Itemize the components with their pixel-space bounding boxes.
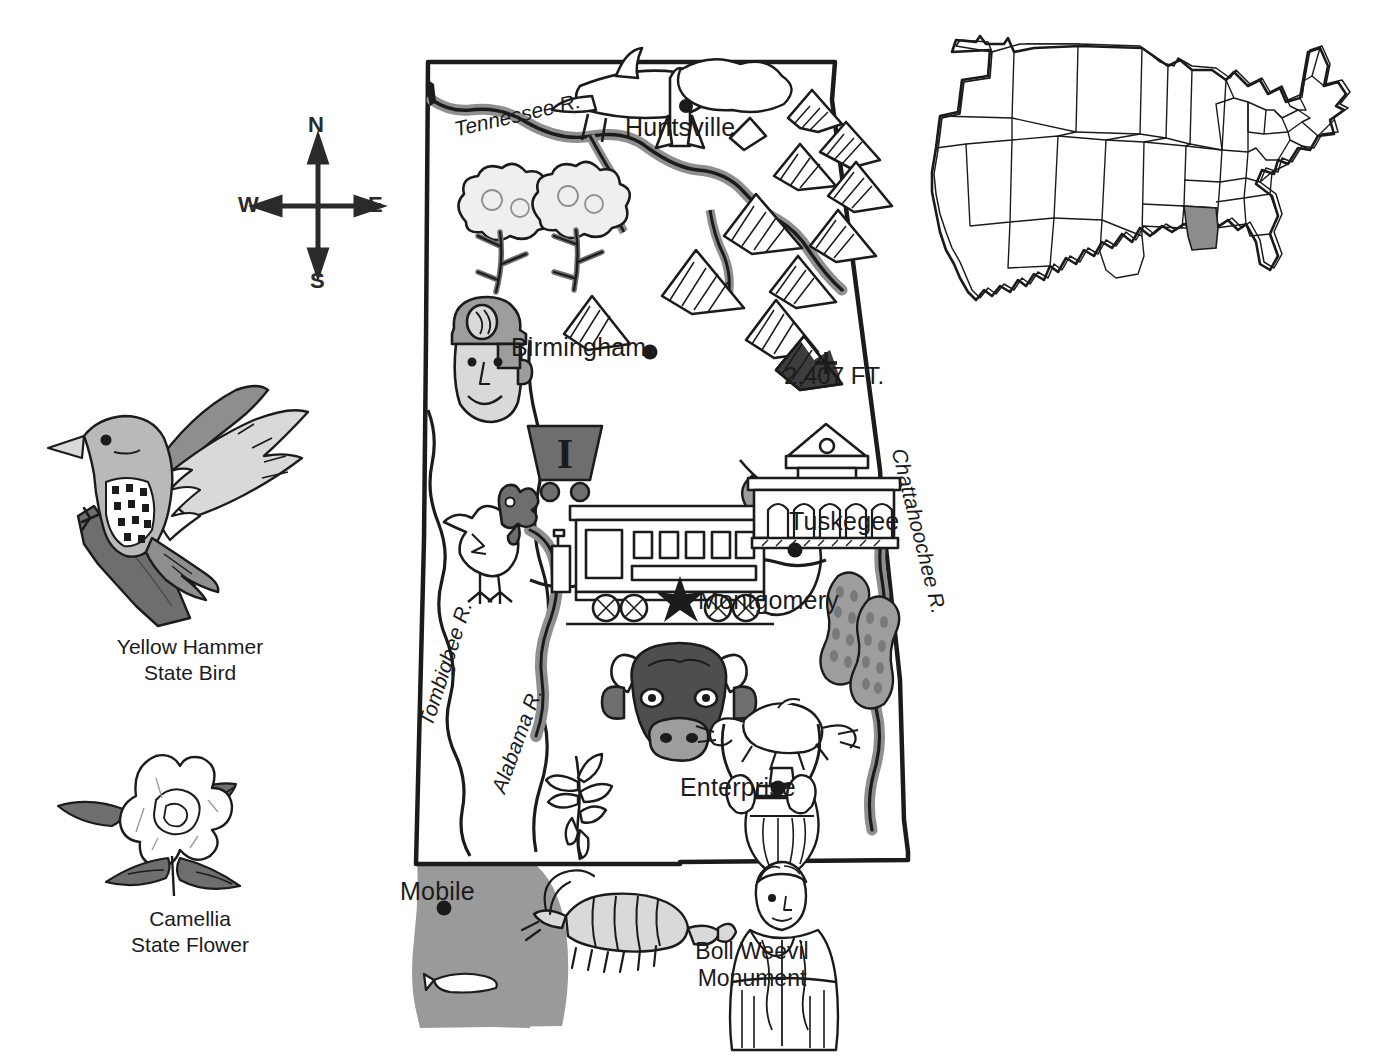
boll-weevil-monument-label: Boll Weevil Monument <box>672 938 832 992</box>
camellia-flower-icon <box>40 740 340 900</box>
united-states-inset-map <box>930 22 1360 322</box>
svg-text:I: I <box>557 431 573 477</box>
state-bird-panel: Yellow Hammer State Bird <box>40 378 340 685</box>
state-flower-subtitle: State Flower <box>40 932 340 958</box>
city-label-huntsville: Huntsville <box>625 113 735 142</box>
city-label-mobile: Mobile <box>400 877 475 906</box>
state-flower-panel: Camellia State Flower <box>40 740 340 957</box>
inset-highlight-alabama <box>1184 206 1218 250</box>
yellowhammer-bird-icon <box>40 378 340 628</box>
state-bird-subtitle: State Bird <box>40 660 340 686</box>
compass-rose: N S E W <box>252 118 384 294</box>
tuskegee-marker <box>788 543 803 558</box>
state-bird-name: Yellow Hammer <box>40 634 340 660</box>
state-flower-name: Camellia <box>40 906 340 932</box>
compass-north-label: N <box>308 112 324 138</box>
city-label-montgomery: Montgomery <box>698 586 839 615</box>
elevation-label: 2,407 FT. <box>784 362 884 390</box>
monument-label-line2: Monument <box>672 965 832 992</box>
state-flower-caption: Camellia State Flower <box>40 906 340 957</box>
state-bird-caption: Yellow Hammer State Bird <box>40 634 340 685</box>
city-label-birmingham: Birmingham <box>511 333 646 362</box>
cloud-icon <box>678 59 792 112</box>
compass-west-label: W <box>238 192 259 218</box>
city-label-tuskegee: Tuskegee <box>789 507 899 536</box>
compass-south-label: S <box>310 268 325 294</box>
city-label-enterprise: Enterprise <box>680 773 796 802</box>
monument-label-line1: Boll Weevil <box>672 938 832 965</box>
huntsville-marker <box>679 99 693 113</box>
